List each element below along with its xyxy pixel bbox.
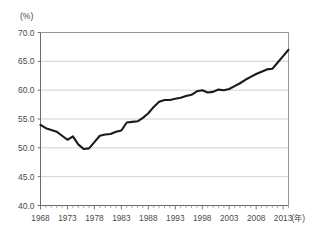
y-axis-tick-label: 60.0: [18, 85, 35, 95]
y-axis-tick-label: 70.0: [18, 28, 35, 38]
x-axis-tick-label: 2003: [220, 213, 239, 223]
x-axis-labels-group: 1968197319781983198819931998200320082013: [31, 213, 292, 223]
y-axis-tick-label: 65.0: [18, 56, 35, 66]
x-axis-tick-label: 2013: [274, 213, 293, 223]
x-axis-tick-label: 1968: [31, 213, 50, 223]
x-axis-tick-label: 1993: [166, 213, 185, 223]
line-chart: (%) 70.065.060.055.050.045.040.0 1968197…: [0, 0, 326, 243]
series-line-series-1: [41, 50, 289, 149]
y-axis-tick-label: 50.0: [18, 143, 35, 153]
series-group: [41, 50, 289, 149]
x-axis-ticks-group: [41, 206, 289, 210]
x-axis-tick-label: 1978: [85, 213, 104, 223]
x-axis-tick-label: 2008: [247, 213, 266, 223]
x-axis-unit-group: (年): [292, 213, 306, 223]
x-axis-tick-label: 1983: [112, 213, 131, 223]
x-axis-tick-label: 1973: [58, 213, 77, 223]
chart-plot-area: 70.065.060.055.050.045.040.0 19681973197…: [0, 0, 326, 243]
x-axis-tick-label: 1998: [193, 213, 212, 223]
x-axis-unit-label: (年): [292, 213, 306, 223]
gridlines-group: [41, 61, 289, 176]
y-axis-tick-label: 55.0: [18, 114, 35, 124]
y-axis-labels-group: 70.065.060.055.050.045.040.0: [18, 28, 35, 211]
y-axis-tick-label: 40.0: [18, 201, 35, 211]
y-axis-tick-label: 45.0: [18, 172, 35, 182]
x-axis-tick-label: 1988: [139, 213, 158, 223]
